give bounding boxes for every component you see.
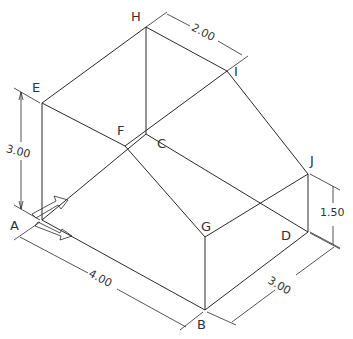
vertex-label-e: E bbox=[32, 81, 40, 94]
vertex-label-g: G bbox=[201, 220, 211, 233]
vertex-label-d: D bbox=[281, 229, 291, 242]
vertex-label-i: I bbox=[234, 65, 238, 78]
drawing-canvas bbox=[0, 0, 353, 339]
vertex-label-c: C bbox=[157, 137, 166, 150]
vertex-label-j: J bbox=[310, 154, 314, 167]
object-edges bbox=[42, 27, 308, 310]
vertex-label-h: H bbox=[131, 10, 141, 23]
vertex-label-f: F bbox=[117, 124, 124, 137]
vertex-label-a: A bbox=[10, 219, 19, 232]
vertex-label-b: B bbox=[197, 318, 206, 331]
dimension-text-right-height: 1.50 bbox=[320, 207, 345, 218]
isometric-drawing: H I E F C J G D A B 3.00 2.00 4.00 3.00 … bbox=[0, 0, 353, 339]
